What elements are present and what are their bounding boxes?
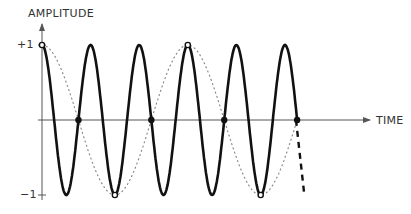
sample-point-filled-dot <box>75 117 81 123</box>
sample-point-open-circle <box>39 42 44 47</box>
sample-point-open-circle <box>112 192 117 197</box>
plot-area <box>0 0 411 214</box>
dashed-continuation <box>296 120 304 192</box>
sample-point-filled-dot <box>294 117 300 123</box>
sample-point-open-circle <box>185 42 190 47</box>
sample-point-filled-dot <box>148 117 154 123</box>
y-tick-plus-one: +1 <box>17 38 34 51</box>
sample-point-open-circle <box>258 192 263 197</box>
x-axis-label: TIME <box>376 114 404 127</box>
y-tick-minus-one: −1 <box>20 188 37 201</box>
sample-point-filled-dot <box>221 117 227 123</box>
aliasing-diagram: AMPLITUDE TIME +1 −1 <box>0 0 411 214</box>
y-axis-label: AMPLITUDE <box>28 7 94 20</box>
